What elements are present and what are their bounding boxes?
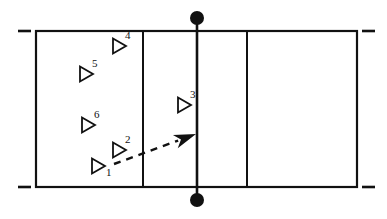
diagram-canvas: 1 2 3 4 5 6 bbox=[0, 0, 387, 219]
player-marker-triangle[interactable] bbox=[92, 159, 105, 174]
player-number-label: 4 bbox=[125, 30, 131, 41]
player-number-label: 2 bbox=[125, 134, 131, 145]
net-post-top-icon bbox=[190, 11, 204, 25]
player-marker-triangle[interactable] bbox=[82, 118, 95, 133]
player-marker-triangle[interactable] bbox=[178, 98, 191, 113]
player-marker-triangle[interactable] bbox=[113, 39, 126, 54]
net-post-bottom-icon bbox=[190, 193, 204, 207]
court-diagram-svg bbox=[0, 0, 387, 219]
player-marker-triangle[interactable] bbox=[113, 143, 126, 158]
player-number-label: 5 bbox=[92, 58, 98, 69]
player-number-label: 3 bbox=[190, 89, 196, 100]
player-marker-triangle[interactable] bbox=[80, 67, 93, 82]
player-number-label: 6 bbox=[94, 109, 100, 120]
player-number-label: 1 bbox=[106, 167, 112, 178]
